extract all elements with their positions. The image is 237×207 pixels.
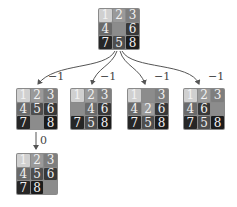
edge-root-child-3 [120,51,145,84]
tile-3: 3 [155,89,168,102]
puzzle-state-grandchild-1: 12345678 [16,153,58,195]
tile-2: 2 [198,89,211,102]
tile-6: 6 [44,168,57,181]
tile-7: 7 [17,116,30,129]
tile-8: 8 [126,36,139,49]
tile-3: 3 [98,89,111,102]
tile-6: 6 [126,23,139,36]
tile-2: 2 [85,89,98,102]
tile-5: 5 [31,168,44,181]
tile-1: 1 [99,9,112,22]
tile-2: 2 [31,89,44,102]
tile-8: 8 [98,116,111,129]
puzzle-state-root: 12346758 [98,8,140,50]
blank-tile [31,116,44,129]
puzzle-state-child-1: 12345678 [16,88,58,130]
tile-3: 3 [211,89,224,102]
puzzle-state-child-2: 12346758 [70,88,112,130]
tile-6: 6 [98,103,111,116]
tile-4: 4 [128,103,141,116]
tile-4: 4 [17,103,30,116]
tile-4: 4 [184,103,197,116]
tile-3: 3 [126,9,139,22]
puzzle-state-child-4: 12346758 [183,88,225,130]
tile-1: 1 [184,89,197,102]
tile-7: 7 [184,116,197,129]
tile-1: 1 [17,154,30,167]
edge-label-5: 0 [40,134,47,147]
blank-tile [211,103,224,116]
tile-5: 5 [85,116,98,129]
tile-6: 6 [198,103,211,116]
blank-tile [71,103,84,116]
tile-2: 2 [31,154,44,167]
tile-4: 4 [85,103,98,116]
tile-7: 7 [17,181,30,194]
puzzle-state-child-3: 13426758 [127,88,169,130]
tile-7: 7 [71,116,84,129]
tile-8: 8 [31,181,44,194]
tile-6: 6 [155,103,168,116]
edge-label-4: −1 [208,70,224,83]
tile-8: 8 [155,116,168,129]
tile-1: 1 [128,89,141,102]
tile-3: 3 [44,154,57,167]
tile-5: 5 [142,116,155,129]
edge-label-3: −1 [154,70,170,83]
blank-tile [113,23,126,36]
tile-7: 7 [99,36,112,49]
tile-4: 4 [99,23,112,36]
blank-tile [44,181,57,194]
tile-2: 2 [113,9,126,22]
tile-5: 5 [31,103,44,116]
tile-2: 2 [142,103,155,116]
tile-7: 7 [128,116,141,129]
edge-label-2: −1 [100,70,116,83]
tile-5: 5 [198,116,211,129]
tile-4: 4 [17,168,30,181]
edge-label-1: −1 [48,70,64,83]
tile-8: 8 [211,116,224,129]
tile-5: 5 [113,36,126,49]
tile-1: 1 [71,89,84,102]
tile-6: 6 [44,103,57,116]
blank-tile [142,89,155,102]
tile-1: 1 [17,89,30,102]
tile-8: 8 [44,116,57,129]
tile-3: 3 [44,89,57,102]
